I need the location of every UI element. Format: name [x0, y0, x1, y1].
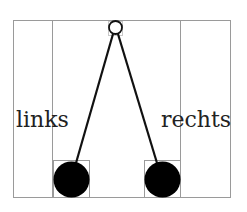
left-rope	[76, 34, 113, 163]
right-rope	[118, 34, 157, 163]
pivot-circle	[109, 21, 122, 34]
label-right: rechts	[161, 107, 231, 132]
pendulum-diagram: links rechts	[0, 0, 247, 212]
left-ball	[54, 162, 90, 198]
label-left: links	[16, 107, 69, 132]
right-ball	[145, 162, 181, 198]
